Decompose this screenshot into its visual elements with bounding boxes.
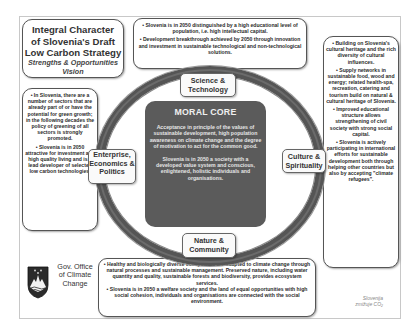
enterprise-point-2: • Slovenia is in 2050 attractive for inv…: [25, 144, 95, 175]
enterprise-box: • In Slovenia, there are a number of sec…: [22, 88, 98, 231]
culture-point-4: • Slovenia is actively participating in …: [326, 139, 396, 182]
science-technology-box: • Slovenia is in 2050 distinguished by a…: [133, 18, 307, 69]
moral-core-text-2: Slovenia is in 2050 a society with a dev…: [149, 156, 262, 182]
nature-point-2: • Slovenia is in 2050 a welfare society …: [102, 286, 312, 305]
title-line-1: Integral Character: [23, 24, 123, 36]
science-point-1: • Slovenia is in 2050 distinguished by a…: [137, 22, 303, 34]
enterprise-point-1: • In Slovenia, there are a number of sec…: [25, 92, 95, 142]
moral-core: MORAL CORE Acceptance in principle of th…: [145, 101, 266, 227]
subtitle-line-2: Vision: [23, 68, 123, 77]
title-box: Integral Character of Slovenia's Draft L…: [22, 19, 124, 78]
government-office-label: Gov. Office of Climate Change: [55, 263, 95, 288]
nature-box: • Healthy and biologically diverse ecosy…: [98, 258, 316, 317]
moral-core-title: MORAL CORE: [149, 107, 262, 117]
label-nature-community: Nature & Community: [182, 233, 236, 258]
moral-core-text-1: Acceptance in principle of the values of…: [149, 124, 262, 150]
title-line-2: of Slovenia's Draft: [23, 36, 123, 48]
science-point-2: • Development breakthrough achieved by 2…: [137, 36, 303, 55]
culture-point-3: • Improved educational structure allows …: [326, 106, 396, 137]
culture-point-1: • Building on Slovenia's cultural herita…: [326, 40, 396, 65]
slovenia-coat-of-arms-icon: [26, 265, 50, 299]
culture-point-2: • Supply networks in sustainable food, w…: [326, 67, 396, 104]
culture-box: • Building on Slovenia's cultural herita…: [323, 36, 399, 268]
label-science-technology: Science & Technology: [180, 73, 236, 97]
label-enterprise-economics-politics: Enterprise, Economics & Politics: [88, 149, 136, 184]
label-culture-spirituality: Culture & Spirituality: [282, 149, 326, 173]
slogan-text: Slovenija zmižuje CO₂: [349, 296, 383, 307]
